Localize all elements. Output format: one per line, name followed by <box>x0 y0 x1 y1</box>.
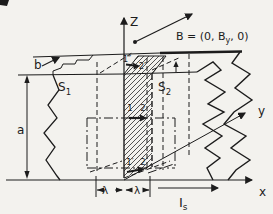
figure-canvas: Z y x B = (0, By, 0) b a S1 S2 λ λ Is 1 … <box>0 0 273 214</box>
surface2-sub: 2 <box>166 87 171 97</box>
width-label: b <box>34 58 42 72</box>
surface1-sub: 1 <box>66 87 71 97</box>
field-label-main: B = (0, B <box>176 30 226 43</box>
x-axis-label: x <box>259 185 266 199</box>
field-label-end: , 0) <box>230 30 248 43</box>
surface2-main: S <box>158 80 166 94</box>
point-2-dprime-label: 2″ <box>139 61 148 71</box>
point-2-prime-label: 2′ <box>140 157 147 167</box>
field-label: B = (0, By, 0) <box>176 30 249 45</box>
point-2-label: 2 <box>140 103 145 113</box>
surface1-main: S <box>58 80 66 94</box>
lambda-right-label: λ <box>134 184 140 196</box>
point-1-prime-label: 1′ <box>126 157 133 167</box>
y-axis-label: y <box>258 104 265 118</box>
lambda-left-label: λ <box>102 184 108 196</box>
slab-top-back-edge-right <box>160 52 242 54</box>
point-1-dprime-label: 1″ <box>123 54 132 64</box>
current-sub: s <box>183 202 188 212</box>
z-axis-label: Z <box>130 15 138 29</box>
point-1-label: 1 <box>127 103 132 113</box>
thickness-label: a <box>17 123 24 137</box>
